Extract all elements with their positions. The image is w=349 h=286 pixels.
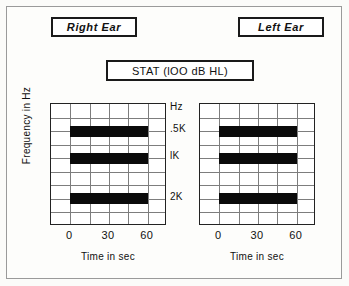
y-axis-unit-label: Hz (170, 101, 183, 112)
right-ear-label: Right Ear (67, 21, 121, 33)
x-tick-label: 0 (207, 229, 229, 241)
gridline-horizontal (200, 118, 314, 119)
x-axis-title-left-ear: Time in sec (199, 251, 315, 262)
gridline-vertical (258, 104, 259, 224)
y-tick-label: lK (170, 150, 180, 161)
stimulus-level-box: STAT (lOO dB HL) (106, 60, 254, 81)
chart-left-ear: Time in sec 03060 (199, 103, 315, 225)
gridline-horizontal (200, 185, 314, 186)
y-tick-label: 2K (170, 191, 183, 202)
tone-decay-bar (219, 193, 296, 204)
gridline-horizontal (51, 185, 165, 186)
gridline-vertical (109, 104, 110, 224)
left-ear-label: Left Ear (258, 21, 304, 33)
tone-decay-bar (219, 126, 296, 137)
left-ear-title-box: Left Ear (238, 17, 324, 37)
x-tick-label: 30 (246, 229, 268, 241)
plot-area-right-ear (50, 103, 166, 225)
tone-decay-bar (70, 126, 147, 137)
gridline-vertical (219, 104, 220, 224)
gridline-vertical (148, 104, 149, 224)
gridline-horizontal (200, 212, 314, 213)
gridline-horizontal (51, 172, 165, 173)
gridline-horizontal (51, 145, 165, 146)
plot-area-left-ear (199, 103, 315, 225)
gridline-vertical (70, 104, 71, 224)
tone-decay-bar (219, 153, 296, 164)
gridline-horizontal (200, 172, 314, 173)
x-tick-label: 60 (136, 229, 158, 241)
gridline-vertical (239, 104, 240, 224)
x-tick-label: 0 (58, 229, 80, 241)
x-tick-label: 30 (97, 229, 119, 241)
y-axis-title: Frequency in Hz (21, 66, 32, 186)
tone-decay-bar (70, 153, 147, 164)
tone-decay-bar (70, 193, 147, 204)
right-ear-title-box: Right Ear (51, 17, 137, 37)
stimulus-level-label: STAT (lOO dB HL) (132, 65, 228, 77)
x-axis-title-right-ear: Time in sec (50, 251, 166, 262)
gridline-vertical (128, 104, 129, 224)
audiogram-figure: Right Ear Left Ear STAT (lOO dB HL) Freq… (0, 0, 349, 286)
y-tick-label: .5K (170, 123, 186, 134)
gridline-vertical (277, 104, 278, 224)
gridline-horizontal (200, 145, 314, 146)
gridline-vertical (297, 104, 298, 224)
chart-right-ear: Time in sec 03060Hz.5KlK2K (50, 103, 166, 225)
gridline-horizontal (51, 118, 165, 119)
gridline-vertical (90, 104, 91, 224)
gridline-horizontal (51, 212, 165, 213)
x-tick-label: 60 (285, 229, 307, 241)
